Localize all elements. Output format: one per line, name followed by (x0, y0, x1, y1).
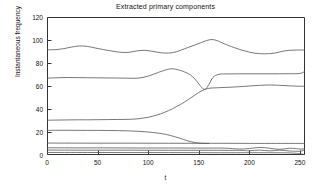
y-tick-label: 40 (21, 106, 43, 113)
x-tick-label: 50 (83, 159, 113, 166)
y-axis-tick-labels: 020406080100120 (19, 17, 43, 155)
x-tick-label: 250 (285, 159, 315, 166)
series-line-component-2-upper-mid (47, 69, 305, 90)
series-line-component-3-rising (47, 85, 305, 120)
y-tick-label: 20 (21, 129, 43, 136)
x-axis-label: t (0, 174, 331, 181)
x-tick-label: 100 (133, 159, 163, 166)
chart-title: Extracted primary components (0, 3, 331, 10)
series-line-component-1-highest (47, 40, 305, 54)
plot-area (47, 17, 305, 155)
plot-frame (48, 18, 305, 155)
axis-ticks (48, 18, 301, 156)
y-axis-label: Instantaneous frequency (14, 0, 21, 107)
series-line-component-6-flat-six (47, 147, 305, 149)
data-series-group (47, 40, 305, 155)
y-tick-label: 60 (21, 83, 43, 90)
plot-svg (47, 17, 305, 155)
chart-figure: Extracted primary components 02040608010… (0, 0, 331, 193)
x-tick-label: 200 (234, 159, 264, 166)
series-line-component-4-descending (47, 130, 209, 143)
x-axis-tick-labels: 050100150200250 (47, 159, 305, 171)
axis-frame (48, 18, 305, 155)
y-tick-label: 120 (21, 14, 43, 21)
y-tick-label: 100 (21, 37, 43, 44)
x-tick-label: 150 (184, 159, 214, 166)
y-tick-label: 80 (21, 60, 43, 67)
series-line-component-7-flat-four (47, 150, 305, 152)
x-tick-label: 0 (32, 159, 62, 166)
y-tick-label: 0 (21, 152, 43, 159)
